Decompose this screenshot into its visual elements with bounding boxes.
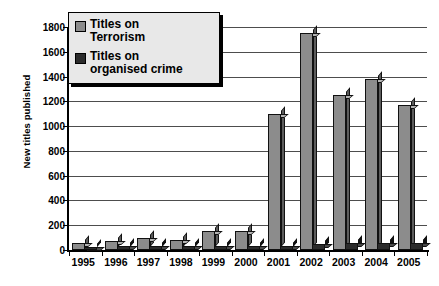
bar-front-face xyxy=(280,246,293,250)
bar-front-face xyxy=(333,95,346,250)
bar-front-face xyxy=(345,243,358,250)
bar-titles-on-organised-crime-2005 xyxy=(410,243,423,250)
bar-side-face xyxy=(378,71,382,247)
x-axis-tick-label: 2002 xyxy=(299,256,322,268)
bar-front-face xyxy=(377,243,390,250)
bar-titles-on-organised-crime-2004 xyxy=(377,243,390,250)
bar-titles-on-terrorism-2001 xyxy=(268,114,281,250)
legend-item-terrorism: Titles on Terrorism xyxy=(75,18,213,45)
bar-front-face xyxy=(268,114,281,250)
y-axis-tick-label: 1800 xyxy=(43,22,65,33)
x-axis-tick-label: 2001 xyxy=(267,256,290,268)
bar-front-face xyxy=(117,246,130,250)
chart-legend: Titles on Terrorism Titles on organised … xyxy=(68,12,220,84)
bar-side-face xyxy=(281,106,285,247)
bar-titles-on-terrorism-2004 xyxy=(365,79,378,250)
y-axis-tick-label: 1600 xyxy=(43,46,65,57)
bar-titles-on-organised-crime-2001 xyxy=(280,246,293,250)
x-axis-tick-label: 2004 xyxy=(364,256,387,268)
bar-front-face xyxy=(410,243,423,250)
legend-item-organised-crime: Titles on organised crime xyxy=(75,50,213,77)
bar-titles-on-organised-crime-2003 xyxy=(345,243,358,250)
bar-titles-on-terrorism-2003 xyxy=(333,95,346,250)
bar-side-face xyxy=(346,87,350,247)
bar-front-face xyxy=(149,246,162,250)
bar-titles-on-terrorism-2002 xyxy=(300,33,313,250)
bar-titles-on-organised-crime-1998 xyxy=(182,246,195,250)
x-axis-tick-label: 2003 xyxy=(332,256,355,268)
bar-side-face xyxy=(248,224,252,247)
bar-titles-on-organised-crime-2002 xyxy=(312,244,325,250)
bar-titles-on-organised-crime-2000 xyxy=(247,246,260,250)
bar-front-face xyxy=(398,105,411,250)
bar-chart: New titles published 0200400600800100012… xyxy=(0,0,439,286)
x-axis-tick-label: 1998 xyxy=(169,256,192,268)
bar-group xyxy=(297,27,330,250)
bar-group xyxy=(362,27,395,250)
x-axis-tick-label: 2005 xyxy=(397,256,420,268)
bar-titles-on-organised-crime-1999 xyxy=(214,246,227,250)
x-axis-tick-label: 1995 xyxy=(72,256,95,268)
x-axis-tick-label: 1997 xyxy=(137,256,160,268)
y-axis-tick-label: 1200 xyxy=(43,96,65,107)
terrorism-swatch-icon xyxy=(75,21,86,32)
bar-front-face xyxy=(247,246,260,250)
bar-side-face xyxy=(411,97,415,247)
bar-front-face xyxy=(312,244,325,250)
bar-titles-on-organised-crime-1996 xyxy=(117,246,130,250)
legend-label-terrorism: Titles on Terrorism xyxy=(90,18,145,45)
bar-group xyxy=(394,27,427,250)
organised-crime-swatch-icon xyxy=(75,53,86,64)
legend-label-organised-crime: Titles on organised crime xyxy=(90,50,183,77)
y-axis-title: New titles published xyxy=(21,42,32,202)
bar-front-face xyxy=(182,246,195,250)
bar-side-face xyxy=(313,25,317,247)
x-axis-line xyxy=(67,250,429,252)
bar-front-face xyxy=(214,246,227,250)
y-axis-tick-label: 1000 xyxy=(43,121,65,132)
bar-front-face xyxy=(365,79,378,250)
x-axis-tick-label: 1996 xyxy=(104,256,127,268)
bar-titles-on-organised-crime-1995 xyxy=(84,247,97,250)
bar-side-face xyxy=(215,224,219,247)
x-axis-tick-label: 1999 xyxy=(202,256,225,268)
bar-front-face xyxy=(84,247,97,250)
bar-front-face xyxy=(300,33,313,250)
bar-group xyxy=(232,27,265,250)
bar-group xyxy=(329,27,362,250)
bar-titles-on-terrorism-2005 xyxy=(398,105,411,250)
y-axis-tick-label: 1400 xyxy=(43,71,65,82)
bar-titles-on-organised-crime-1997 xyxy=(149,246,162,250)
x-axis-tick-label: 2000 xyxy=(234,256,257,268)
bar-group xyxy=(264,27,297,250)
